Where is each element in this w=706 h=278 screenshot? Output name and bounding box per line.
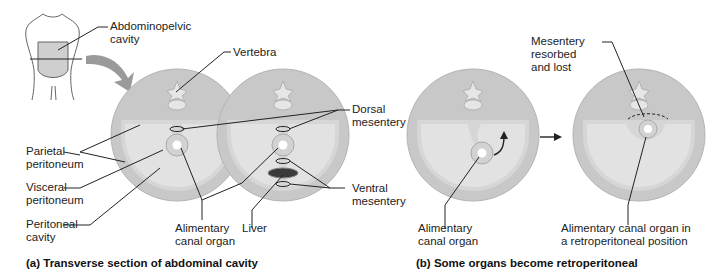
label-alimentary-canal-organ-a: Alimentary canal organ (175, 222, 235, 248)
label-ventral-mesentery: Ventral mesentery (352, 182, 406, 208)
label-abdominopelvic-cavity: Abdominopelvic cavity (110, 20, 191, 46)
label-mesentery-resorbed: Mesentery resorbed and lost (531, 35, 585, 74)
label-alimentary-canal-organ-b: Alimentary canal organ (418, 222, 478, 248)
label-dorsal-mesentery: Dorsal mesentery (352, 103, 406, 129)
label-visceral-peritoneum: Visceral peritoneum (26, 181, 84, 207)
label-peritoneal-cavity: Peritoneal cavity (26, 218, 78, 244)
section-b2 (573, 69, 705, 201)
right-arrow-icon (554, 133, 562, 141)
caption-panel-a: (a) Transverse section of abdominal cavi… (26, 257, 258, 269)
label-liver: Liver (242, 222, 267, 235)
peritoneum-diagram: Abdominopelvic cavity Vertebra Dorsal me… (0, 0, 706, 278)
torso-icon (26, 14, 82, 100)
curved-arrow-icon (86, 55, 134, 92)
liver-shape (268, 168, 298, 178)
label-vertebra: Vertebra (233, 46, 276, 59)
section-a2 (217, 69, 349, 201)
label-parietal-peritoneum: Parietal peritoneum (26, 145, 84, 171)
caption-panel-b: (b) Some organs become retroperitoneal (416, 257, 638, 269)
label-retroperitoneal-organ: Alimentary canal organ in a retroperiton… (561, 222, 691, 248)
section-b1 (407, 69, 539, 201)
